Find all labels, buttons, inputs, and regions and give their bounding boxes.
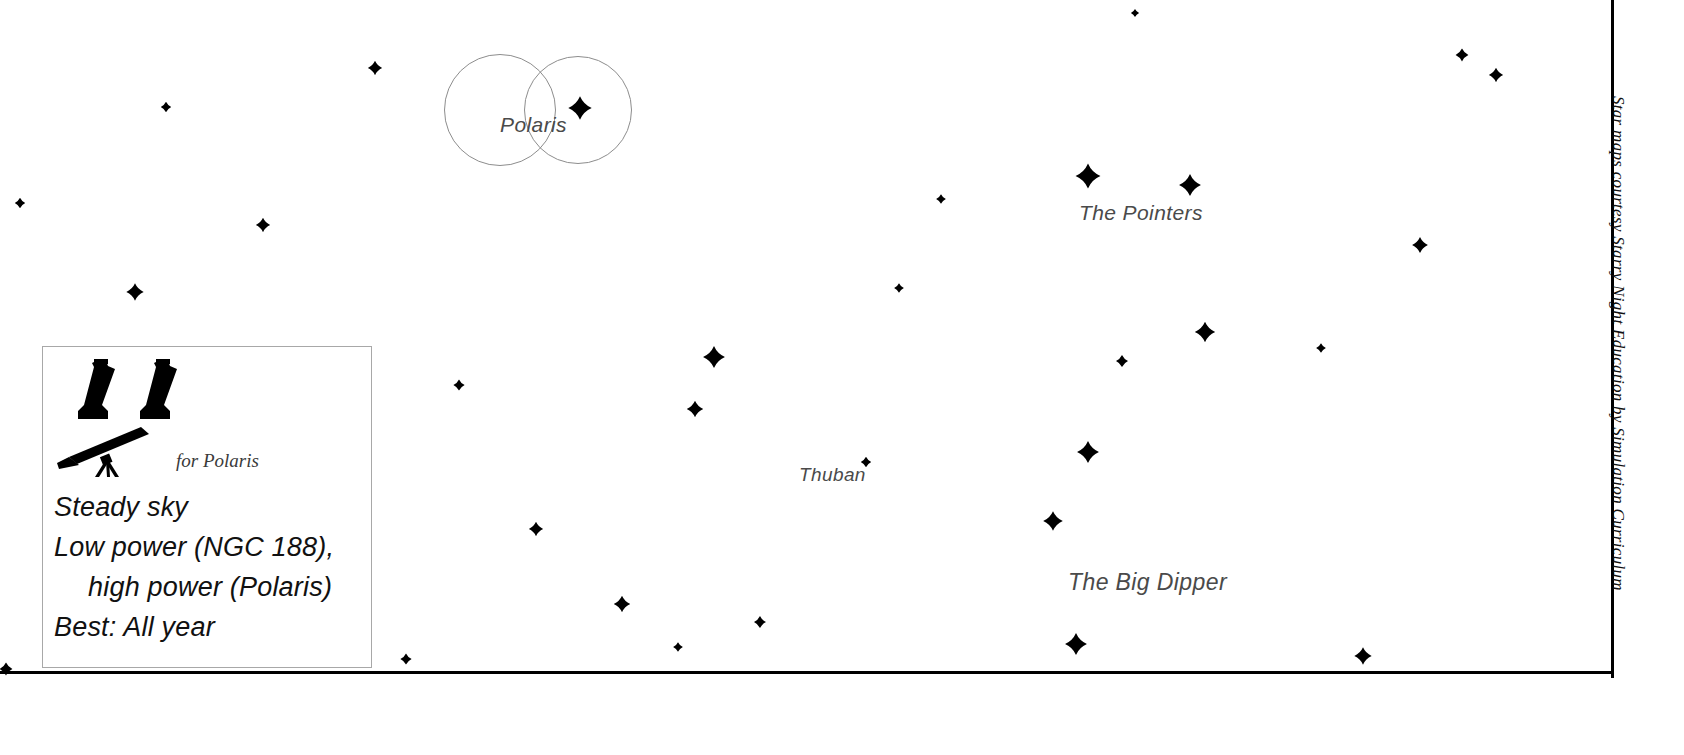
binoculars-icon xyxy=(65,359,185,425)
legend-line-steady-sky: Steady sky xyxy=(43,487,371,527)
star xyxy=(451,377,467,393)
star xyxy=(1129,7,1142,20)
star xyxy=(398,651,414,667)
telescope-note: for Polaris xyxy=(176,450,259,472)
star xyxy=(671,640,685,654)
star xyxy=(1063,631,1089,657)
label-thuban: Thuban xyxy=(799,464,866,486)
label-the-pointers: The Pointers xyxy=(1079,201,1203,225)
star xyxy=(1454,47,1471,64)
star xyxy=(0,661,15,678)
star xyxy=(124,281,146,303)
star xyxy=(1177,172,1203,198)
star xyxy=(1410,235,1430,255)
star xyxy=(612,594,633,615)
legend-line-high-power: high power (Polaris) xyxy=(43,567,371,607)
star xyxy=(13,196,28,211)
star xyxy=(1114,353,1130,369)
legend-icon-row: for Polaris xyxy=(43,347,371,479)
label-polaris: Polaris xyxy=(500,113,567,137)
star xyxy=(752,614,768,630)
telescope-icon xyxy=(55,425,160,481)
label-the-big-dipper: The Big Dipper xyxy=(1068,569,1227,596)
star xyxy=(254,216,273,235)
star xyxy=(1075,439,1101,465)
star xyxy=(366,59,385,78)
finder-circle-2 xyxy=(524,56,632,164)
star xyxy=(1041,509,1065,533)
legend-text-lines: Steady sky Low power (NGC 188), high pow… xyxy=(43,487,371,647)
star xyxy=(1352,645,1374,667)
frame-bottom-rule xyxy=(0,671,1614,674)
map-credit: Star maps courtesy Starry Night Educatio… xyxy=(1608,96,1628,591)
star xyxy=(1487,66,1506,85)
star xyxy=(934,192,948,206)
legend-line-best-season: Best: All year xyxy=(43,607,371,647)
star xyxy=(892,281,906,295)
star xyxy=(701,344,727,370)
observing-legend-box: for Polaris Steady sky Low power (NGC 18… xyxy=(42,346,372,668)
star xyxy=(685,399,706,420)
star xyxy=(1314,341,1328,355)
star xyxy=(1193,320,1218,345)
star xyxy=(1074,162,1103,191)
legend-line-low-power: Low power (NGC 188), xyxy=(43,527,371,567)
star xyxy=(159,100,174,115)
star-map-page: Polaris The Pointers Thuban The Big Dipp… xyxy=(0,0,1684,755)
star xyxy=(527,520,546,539)
